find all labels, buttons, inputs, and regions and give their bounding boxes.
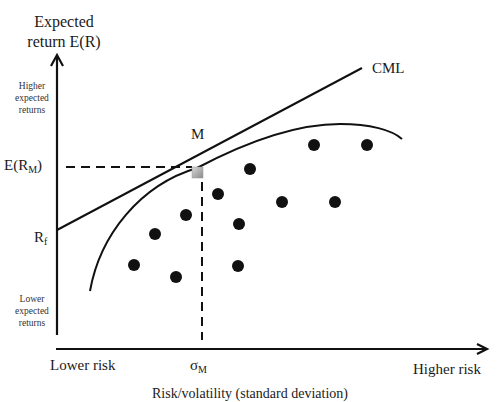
- portfolio-dot: [180, 209, 192, 221]
- portfolio-dot: [128, 259, 140, 271]
- portfolio-dot: [212, 188, 224, 200]
- portfolio-dot: [170, 271, 182, 283]
- portfolio-dot: [276, 196, 288, 208]
- portfolio-dot: [329, 196, 341, 208]
- portfolio-dot: [361, 139, 373, 151]
- market-portfolio-marker: [192, 167, 203, 178]
- portfolio-dot: [233, 218, 245, 230]
- portfolio-dot: [149, 228, 161, 240]
- portfolio-dot: [308, 139, 320, 151]
- portfolio-dot: [244, 163, 256, 175]
- portfolio-points: [128, 139, 373, 283]
- portfolio-dot: [232, 260, 244, 272]
